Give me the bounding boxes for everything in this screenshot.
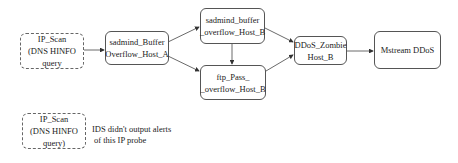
ids-note: IDS didn't output alerts of this IP prob… [92,124,171,146]
edge-sadmind-b-to-ddos [265,28,293,42]
node-ftp-pass-overflow-host-b: ftp_Pass_ _overflow_Host_B [200,65,266,100]
node-label-line: sadmind_buffer [206,14,260,26]
edge-sadmind-a-to-sadmind-b [168,27,199,42]
node-label-line: Overflow_Host_A [105,48,168,60]
node-ip-scan-1: IP_Scan (DNS HINFO query [20,33,84,69]
node-ddos-zombie-host-b: DDoS_Zombie Host_B [294,36,347,65]
node-label-line: sadmind_Buffer [109,36,164,48]
node-sadmind-buffer-overflow-host-a: sadmind_Buffer Overflow_Host_A [105,31,169,65]
node-label-line: _overflow_Host_B [200,26,265,38]
note-line: IDS didn't output alerts [92,124,171,135]
node-label-line: _overflow_Host_B [200,83,265,95]
node-label-line: (DNS HINFO [30,125,78,137]
node-sadmind-buffer-overflow-host-b: sadmind_buffer _overflow_Host_B [200,8,265,44]
edge-sadmind-a-to-ftp-pass-b [168,56,199,71]
node-label-line: IP_Scan [38,33,66,45]
node-mstream-ddos: Mstream DDoS [374,31,441,69]
node-label-line: ftp_Pass_ [216,71,249,83]
node-label-line: (DNS HINFO [28,45,76,57]
node-label-line: IP_Scan [40,113,68,125]
node-label-line: query [42,57,61,69]
node-ip-scan-2: IP_Scan (DNS HINFO query) [22,113,86,149]
note-line: of this IP probe [92,135,171,146]
node-label-line: DDoS_Zombie [295,39,347,51]
node-label-line: Mstream DDoS [381,44,435,56]
node-label-line: query) [43,137,65,149]
node-label-line: Host_B [308,51,334,63]
edge-ftp-pass-b-to-ddos [266,55,293,71]
